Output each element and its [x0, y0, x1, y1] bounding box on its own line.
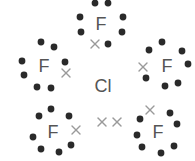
- fluorine-label: F: [39, 56, 50, 76]
- electron-dot: [30, 134, 37, 141]
- electron-dot: [38, 39, 45, 46]
- electron-dot: [68, 142, 75, 149]
- fluorine-atom: F: [134, 106, 181, 156]
- electron-dot: [19, 58, 26, 65]
- fluorine-atom: F: [30, 106, 80, 156]
- electron-dot: [174, 121, 181, 128]
- fluorine-label: F: [96, 14, 107, 34]
- electron-dot: [162, 83, 169, 90]
- fluorine-label: F: [162, 56, 173, 76]
- lewis-structure-diagram: Cl FFFFF: [0, 0, 195, 161]
- electron-dot: [159, 39, 166, 46]
- electron-dot: [62, 59, 69, 66]
- electron-dot: [38, 146, 45, 153]
- electron-dot: [78, 29, 85, 36]
- chlorine-electron-cross: [62, 69, 70, 77]
- lone-pair-cross: [98, 118, 106, 126]
- electron-dot: [146, 47, 153, 54]
- electron-dot: [139, 144, 146, 151]
- lone-pair-cross: [113, 118, 121, 126]
- electron-dot: [21, 72, 28, 79]
- electron-dot: [56, 149, 63, 156]
- electron-dot: [48, 106, 55, 113]
- diagram-canvas: Cl FFFFF: [0, 0, 195, 161]
- fluorine-label: F: [48, 122, 59, 142]
- chlorine-electron-cross: [139, 63, 147, 71]
- electron-dot: [158, 150, 165, 157]
- electron-dot: [179, 48, 186, 55]
- electron-dot: [119, 29, 126, 36]
- electron-dot: [105, 0, 112, 6]
- electron-dot: [143, 75, 150, 82]
- chlorine-electron-cross: [146, 106, 154, 114]
- chlorine-electron-cross: [72, 126, 80, 134]
- electron-dot: [167, 110, 174, 117]
- electron-dot: [77, 14, 84, 21]
- electron-dot: [137, 116, 144, 123]
- central-atom-label: Cl: [95, 76, 112, 96]
- chlorine-electron-cross: [91, 40, 99, 48]
- fluorine-label: F: [153, 122, 164, 142]
- electron-dot: [34, 84, 41, 91]
- electron-dot: [134, 132, 141, 139]
- electron-dot: [171, 143, 178, 150]
- central-lone-pair: [98, 118, 121, 126]
- fluorine-atom: F: [19, 39, 70, 92]
- fluorine-atom: F: [77, 0, 127, 48]
- electron-dot: [48, 85, 55, 92]
- electron-dot: [120, 14, 127, 21]
- electron-dot: [92, 0, 99, 6]
- electron-dot: [175, 80, 182, 87]
- fluorine-atom: F: [139, 39, 191, 90]
- electron-dot: [185, 61, 192, 68]
- electron-dot: [51, 44, 58, 51]
- electron-dot: [66, 113, 73, 120]
- electron-dot: [36, 113, 43, 120]
- electron-dot: [105, 41, 112, 48]
